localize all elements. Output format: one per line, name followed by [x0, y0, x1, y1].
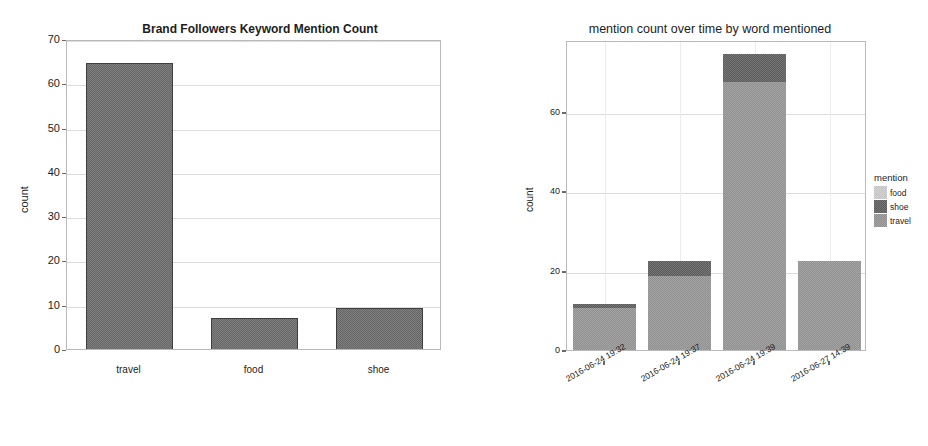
bar-travel — [86, 63, 174, 350]
legend-label: food — [890, 188, 907, 198]
gridline — [567, 114, 865, 115]
chart-title-right: mention count over time by word mentione… — [550, 22, 870, 36]
bar-chart-brand-followers: Brand Followers Keyword Mention Count co… — [0, 0, 470, 446]
legend-item-travel: travel — [874, 214, 928, 227]
y-tick-label: 20 — [30, 254, 60, 266]
y-axis-label-left: count — [18, 186, 30, 213]
y-axis-label-right: count — [524, 188, 535, 212]
bar-segment-shoe — [573, 304, 636, 308]
plot-area-right — [566, 41, 866, 351]
legend-swatch-shoe — [874, 200, 887, 213]
bar-food — [211, 318, 299, 350]
y-tick-label: 50 — [30, 122, 60, 134]
legend-label: shoe — [890, 202, 908, 212]
stacked-bar-chart-mention-over-time: mention count over time by word mentione… — [470, 0, 928, 446]
x-tick-label: travel — [99, 364, 159, 375]
y-tick-mark — [62, 350, 66, 351]
y-tick-label: 40 — [536, 186, 560, 196]
bar-segment-travel — [723, 82, 786, 351]
x-tick-label: food — [224, 364, 284, 375]
y-tick-label: 60 — [30, 77, 60, 89]
gridline — [67, 41, 440, 42]
legend-item-shoe: shoe — [874, 200, 928, 213]
legend-swatch-travel — [874, 214, 887, 227]
y-tick-label: 60 — [536, 107, 560, 117]
gridline — [567, 193, 865, 194]
x-tick-label: shoe — [349, 364, 409, 375]
y-tick-label: 0 — [536, 345, 560, 355]
legend-label: travel — [890, 216, 911, 226]
bar-shoe — [336, 308, 424, 350]
bar-segment-travel — [648, 276, 711, 351]
y-tick-label: 40 — [30, 166, 60, 178]
y-tick-label: 0 — [30, 343, 60, 355]
legend-swatch-food — [874, 186, 887, 199]
chart-title-left: Brand Followers Keyword Mention Count — [60, 22, 460, 36]
y-tick-label: 70 — [30, 33, 60, 45]
legend-mention: mention foodshoetravel — [874, 172, 928, 228]
plot-area-left — [66, 40, 441, 350]
legend-title: mention — [874, 172, 928, 183]
legend-entries: foodshoetravel — [874, 186, 928, 227]
bar-segment-travel — [798, 261, 861, 351]
y-tick-label: 30 — [30, 210, 60, 222]
y-tick-label: 20 — [536, 266, 560, 276]
bar-segment-travel — [573, 308, 636, 351]
figure-canvas: Brand Followers Keyword Mention Count co… — [0, 0, 928, 446]
legend-item-food: food — [874, 186, 928, 199]
bar-segment-shoe — [648, 261, 711, 277]
y-tick-label: 10 — [30, 299, 60, 311]
bar-segment-shoe — [723, 54, 786, 82]
